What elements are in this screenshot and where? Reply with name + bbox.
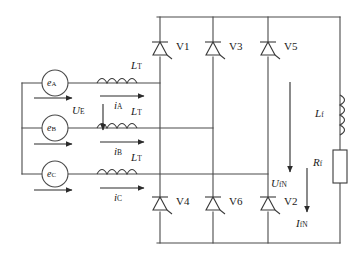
- label-source-b: eB: [47, 123, 56, 133]
- thyristor-v2: [260, 197, 280, 214]
- line-inductor-c: [97, 170, 137, 175]
- thyristor-v5: [260, 42, 280, 59]
- label-thyristor-v1: V1: [176, 41, 189, 52]
- circuit-diagram: eA eB eC LT LT LT iA iB iC UE V1 V3 V5 V…: [0, 0, 353, 261]
- label-current-ic: iC: [114, 192, 122, 203]
- label-load-voltage-ufn: UfN: [271, 178, 287, 189]
- label-thyristor-v3: V3: [229, 41, 242, 52]
- load-resistor-rf: [333, 150, 347, 183]
- label-load-current-ifn: IfN: [296, 218, 308, 229]
- thyristor-v3: [205, 42, 225, 59]
- label-thyristor-v6: V6: [229, 196, 242, 207]
- label-current-ia: iA: [114, 100, 122, 111]
- label-thyristor-v2: V2: [284, 196, 297, 207]
- thyristor-v4: [152, 197, 172, 214]
- label-thyristor-v4: V4: [176, 196, 189, 207]
- label-thyristor-v5: V5: [284, 41, 297, 52]
- thyristor-v6: [205, 197, 225, 214]
- label-inductor-a: LT: [131, 60, 142, 71]
- label-inductor-c: LT: [131, 152, 142, 163]
- thyristor-v1: [152, 42, 172, 59]
- label-inductor-b: LT: [131, 106, 142, 117]
- label-source-c: eC: [47, 169, 56, 179]
- label-current-ib: iB: [114, 146, 122, 157]
- line-inductor-a: [97, 79, 137, 84]
- label-load-inductor-lf: Lf: [315, 108, 324, 119]
- label-source-a: eA: [47, 78, 56, 88]
- label-voltage-ue: UE: [72, 105, 85, 116]
- load-inductor-lf: [340, 95, 345, 135]
- label-load-resistor-rf: Rf: [313, 157, 322, 168]
